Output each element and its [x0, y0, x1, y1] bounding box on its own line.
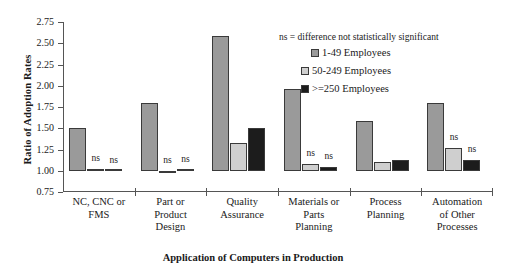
- legend-entry-label: 50-249 Employees: [312, 64, 391, 78]
- bar: [427, 103, 444, 171]
- category-label-line: Automation: [415, 196, 499, 209]
- bar-group: nsns: [135, 22, 207, 192]
- ns-annotation: ns: [163, 155, 171, 165]
- y-axis-tick: 0.75: [58, 192, 63, 193]
- y-axis-tick-label: 1.50: [37, 121, 55, 134]
- ns-annotation: ns: [110, 155, 118, 165]
- category-label-line: Processes: [415, 221, 499, 234]
- legend-entry: 1-49 Employees: [279, 45, 439, 60]
- y-axis-title: Ratio of Adoption Rates: [22, 20, 33, 200]
- x-axis-group-separator: [206, 188, 207, 196]
- y-axis-tick-label: 0.75: [37, 185, 55, 198]
- ns-annotation: ns: [181, 154, 189, 164]
- bar: [105, 169, 122, 171]
- bar: [141, 103, 158, 171]
- y-axis-tick-label: 2.75: [37, 15, 55, 28]
- bar: [356, 121, 373, 170]
- legend-entry-label: >=250 Employees: [312, 82, 389, 96]
- bar: [159, 171, 176, 174]
- y-axis-tick-label: 1.00: [37, 164, 55, 177]
- x-axis-end-tick: [492, 188, 493, 196]
- bar: [374, 162, 391, 171]
- bar: [248, 128, 265, 171]
- legend-entry: >=250 Employees: [279, 81, 439, 96]
- y-axis-tick-label: 1.75: [37, 100, 55, 113]
- category-label-line: Design: [129, 221, 213, 234]
- x-axis-group-separator: [135, 188, 136, 196]
- category-label-line: of Other: [415, 209, 499, 222]
- bar-group: [206, 22, 278, 192]
- bar: [392, 160, 409, 171]
- bar: [445, 148, 462, 171]
- ns-annotation: ns: [92, 153, 100, 163]
- x-axis-group-separator: [278, 188, 279, 196]
- legend-color-swatch: [311, 49, 319, 57]
- bar: [320, 167, 337, 170]
- y-axis-tick-label: 2.00: [37, 79, 55, 92]
- bar: [230, 143, 247, 171]
- legend-entry: 50-249 Employees: [279, 63, 439, 78]
- ns-annotation: ns: [468, 144, 476, 154]
- x-axis-category-label: Automationof OtherProcesses: [415, 196, 499, 234]
- y-axis-tick-label: 2.25: [37, 58, 55, 71]
- x-axis-group-separator: [421, 188, 422, 196]
- bar: [212, 36, 229, 171]
- bar: [463, 160, 480, 171]
- bar: [87, 169, 104, 171]
- legend: ns = difference not statistically signif…: [279, 30, 439, 99]
- ns-annotation: ns: [325, 151, 333, 161]
- bar: [284, 89, 301, 171]
- legend-color-swatch: [301, 67, 309, 75]
- bar: [69, 128, 86, 171]
- bar-chart: Ratio of Adoption Rates 2.752.502.252.00…: [0, 0, 506, 273]
- x-axis-title: Application of Computers in Production: [0, 252, 506, 263]
- category-label-line: Planning: [272, 221, 356, 234]
- legend-entry-label: 1-49 Employees: [322, 46, 391, 60]
- bar: [177, 169, 194, 171]
- x-axis-group-separator: [350, 188, 351, 196]
- y-axis-tick-label: 2.50: [37, 36, 55, 49]
- legend-entries: 1-49 Employees50-249 Employees>=250 Empl…: [279, 45, 439, 96]
- legend-color-swatch: [301, 85, 309, 93]
- y-axis-tick-label: 1.25: [37, 143, 55, 156]
- bar-group: nsns: [63, 22, 135, 192]
- bar: [302, 164, 319, 171]
- ns-annotation: ns: [450, 132, 458, 142]
- legend-note: ns = difference not statistically signif…: [279, 30, 439, 44]
- ns-annotation: ns: [307, 148, 315, 158]
